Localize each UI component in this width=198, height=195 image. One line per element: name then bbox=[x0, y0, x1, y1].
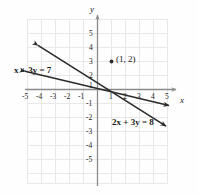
y-tick-minus1: -1 bbox=[86, 100, 92, 108]
intersection-label: (1, 2) bbox=[116, 55, 136, 64]
y-tick-minus2: -2 bbox=[86, 114, 92, 122]
x-tick-minus3: -3 bbox=[50, 93, 56, 101]
x-tick-minus2: -2 bbox=[64, 93, 70, 101]
y-tick-4: 4 bbox=[89, 44, 93, 52]
equation-label-2: 2x + 3y = 8 bbox=[112, 118, 154, 127]
y-tick-5: 5 bbox=[89, 30, 93, 38]
x-tick-minus5: -5 bbox=[22, 93, 28, 101]
x-axis-label: x bbox=[180, 96, 184, 105]
y-tick-minus3: -3 bbox=[86, 128, 92, 136]
y-tick-3: 3 bbox=[89, 58, 93, 66]
intersection-point bbox=[110, 60, 114, 64]
graph-figure: -5 -4 -3 -2 -1 1 2 3 4 5 5 4 3 2 1 -1 -2… bbox=[0, 0, 198, 195]
y-tick-2: 2 bbox=[89, 72, 93, 80]
y-tick-minus4: -4 bbox=[86, 142, 92, 150]
y-axis-label: y bbox=[90, 5, 94, 14]
line-2x-plus-3y-equals-8 bbox=[38, 45, 166, 126]
x-tick-minus1: -1 bbox=[78, 93, 84, 101]
x-tick-4: 4 bbox=[151, 93, 155, 101]
equation-label-1: x + 3y = 7 bbox=[14, 66, 51, 75]
x-tick-5: 5 bbox=[165, 93, 169, 101]
x-tick-3: 3 bbox=[137, 93, 141, 101]
y-tick-1: 1 bbox=[89, 82, 93, 90]
y-tick-minus5: -5 bbox=[86, 156, 92, 164]
x-tick-1: 1 bbox=[109, 93, 113, 101]
x-tick-minus4: -4 bbox=[36, 93, 42, 101]
x-tick-2: 2 bbox=[123, 93, 127, 101]
